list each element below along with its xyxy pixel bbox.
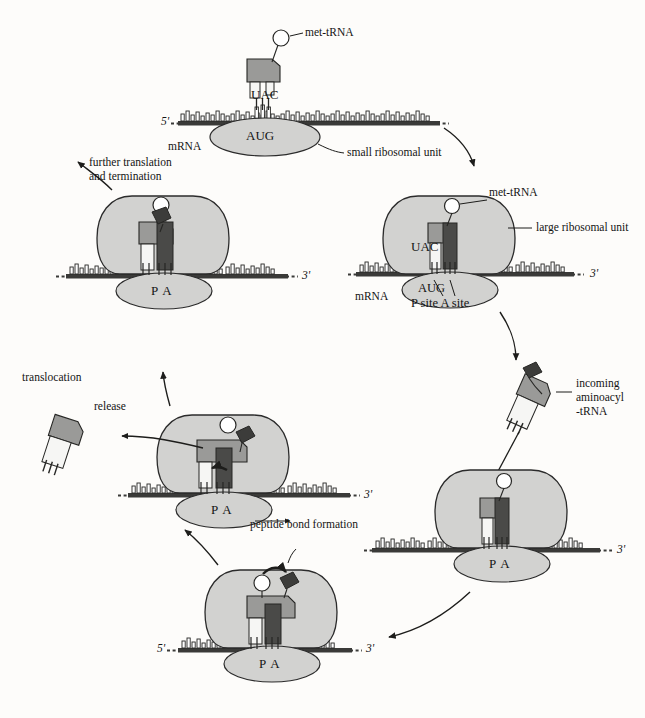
- label-pa-bottom: P A: [259, 657, 281, 671]
- label-incoming-line3: -tRNA: [576, 405, 607, 419]
- label-3prime-further: 3': [302, 269, 310, 283]
- leader-peptide-bond: [288, 549, 296, 563]
- arrow-join-to-entry: [500, 312, 516, 360]
- label-met-trna-right: met-tRNA: [489, 186, 538, 200]
- label-met-trna-top: met-tRNA: [305, 26, 354, 40]
- released-trna-stem: [42, 436, 71, 468]
- a-site-trna-further: [157, 222, 173, 270]
- label-incoming-line2: aminoacyl: [576, 391, 624, 405]
- label-3prime-right: 3': [590, 267, 598, 281]
- label-5prime-top: 5': [161, 115, 169, 129]
- label-uac-right: UAC: [411, 240, 438, 254]
- label-large-ribosomal-unit: large ribosomal unit: [536, 221, 628, 235]
- released-trna: [37, 414, 85, 479]
- label-incoming-line1: incoming: [576, 377, 619, 391]
- label-3prime-entry: 3': [617, 543, 625, 557]
- panel-elongation-termination: [56, 196, 298, 309]
- leader-met-trna-top: [290, 33, 303, 36]
- diagram-canvas: [0, 0, 645, 718]
- translation-cycle-diagram: met-tRNA UAC AUG 5' mRNA small ribosomal…: [0, 0, 645, 718]
- label-further-line2: and termination: [89, 170, 162, 184]
- label-3prime-bottom: 3': [366, 642, 374, 656]
- label-mrna-top: mRNA: [168, 140, 201, 154]
- amino-acid-circle-release: [220, 417, 236, 433]
- label-pa-further: P A: [151, 284, 173, 298]
- label-pa-entry: P A: [489, 557, 511, 571]
- label-aug-right: AUG: [418, 282, 445, 296]
- amino-acid-circle-top: [273, 30, 289, 46]
- label-further-line1: further translation: [89, 156, 172, 170]
- panel-release-translocation: [37, 414, 360, 528]
- amino-acid-circle-peptide: [254, 575, 270, 591]
- leader-small-subunit: [318, 144, 344, 153]
- arrow-release-to-elongation: [163, 372, 170, 406]
- amino-acid-circle-entry: [497, 474, 512, 489]
- label-p-site-a-site: P site A site: [411, 297, 469, 311]
- incoming-aminoacyl-trna: [502, 374, 554, 440]
- met-trna-body-top: [247, 59, 280, 82]
- mrna-bases-top: [181, 111, 429, 121]
- label-5prime-bottom: 5': [157, 642, 165, 656]
- label-peptide-bond-formation: peptide bond formation: [250, 518, 358, 532]
- amino-acid-circle-right: [445, 199, 460, 214]
- arrow-entry-to-peptide: [389, 592, 470, 637]
- label-small-ribosomal-unit: small ribosomal unit: [347, 146, 442, 160]
- label-uac-top: UAC: [251, 88, 278, 102]
- panel-initiation: [171, 30, 449, 156]
- amino-acid-link-top: [272, 45, 278, 62]
- panel-aminoacyl-entry: [364, 362, 612, 582]
- label-aug-top: AUG: [246, 129, 274, 143]
- label-release: release: [94, 400, 126, 414]
- label-translocation: translocation: [22, 371, 81, 385]
- label-pa-release: P A: [211, 503, 233, 517]
- arrow-peptide-to-release: [185, 530, 218, 565]
- arrow-initiation-to-join: [444, 128, 474, 166]
- label-mrna-right: mRNA: [355, 290, 388, 304]
- mrna-strand-top: [178, 121, 440, 126]
- label-3prime-release: 3': [364, 488, 372, 502]
